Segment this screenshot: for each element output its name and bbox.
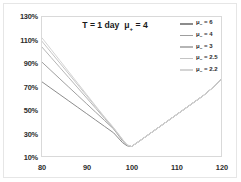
chart-container: 130% 110% 90% 70% 50% 30% 10% 80 90 100 … bbox=[0, 0, 241, 182]
legend-mu-value: = 2.5 bbox=[202, 54, 217, 60]
legend-mu-value: = 4 bbox=[202, 31, 212, 37]
legend-swatch-icon bbox=[180, 69, 193, 71]
chart-title-main: T = 1 day bbox=[82, 20, 119, 30]
legend-mu-value: = 6 bbox=[202, 19, 212, 25]
legend-swatch-icon bbox=[180, 35, 193, 37]
x-axis-tick-label: 110 bbox=[162, 163, 192, 172]
y-axis-tick-label: 130% bbox=[4, 12, 38, 21]
legend-item-label: μ− = 3 bbox=[196, 43, 213, 52]
y-axis-tick-label: 30% bbox=[4, 130, 38, 139]
legend-item-4[interactable]: μ− = 2.2 bbox=[180, 64, 238, 76]
legend-swatch-icon bbox=[180, 23, 193, 25]
legend-item-label: μ− = 6 bbox=[196, 19, 213, 28]
legend-item-2[interactable]: μ− = 3 bbox=[180, 41, 238, 53]
chart-title: T = 1 dayμ+ = 4 bbox=[60, 20, 170, 32]
x-axis-tick-label: 80 bbox=[27, 163, 57, 172]
chart-line-series-0 bbox=[42, 80, 221, 147]
legend-item-label: μ− = 4 bbox=[196, 31, 213, 40]
chart-title-mu-value: = 4 bbox=[133, 20, 148, 30]
y-axis-tick-label: 90% bbox=[4, 59, 38, 68]
legend-swatch-icon bbox=[180, 58, 193, 60]
legend-swatch-icon bbox=[180, 46, 193, 48]
legend-item-label: μ− = 2.5 bbox=[196, 54, 218, 63]
legend-item-1[interactable]: μ− = 4 bbox=[180, 30, 238, 42]
y-axis-tick-label: 70% bbox=[4, 83, 38, 92]
x-axis-tick-label: 120 bbox=[207, 163, 237, 172]
y-axis-tick-label: 10% bbox=[4, 153, 38, 162]
legend-mu-value: = 3 bbox=[202, 43, 212, 49]
x-axis-tick-label: 100 bbox=[117, 163, 147, 172]
x-axis-tick-label: 90 bbox=[72, 163, 102, 172]
chart-legend: μ− = 6μ− = 4μ− = 3μ− = 2.5μ− = 2.2 bbox=[180, 18, 238, 76]
y-axis-tick-label: 110% bbox=[4, 36, 38, 45]
legend-item-3[interactable]: μ− = 2.5 bbox=[180, 53, 238, 65]
legend-item-0[interactable]: μ− = 6 bbox=[180, 18, 238, 30]
y-axis-tick-label: 50% bbox=[4, 106, 38, 115]
legend-item-label: μ− = 2.2 bbox=[196, 66, 218, 75]
legend-mu-value: = 2.2 bbox=[202, 66, 217, 72]
